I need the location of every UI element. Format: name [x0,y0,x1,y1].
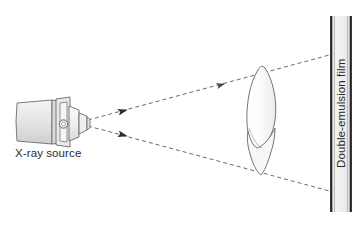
source-port-tip [87,117,90,130]
x-ray-source-label: X-ray source [15,148,81,160]
source-dial-inner-icon [62,122,66,126]
tooth-icon [247,66,276,175]
xray-diagram: X-ray source Double-emulsion film [0,0,364,227]
x-ray-beam-group [88,46,350,199]
source-exit-port [79,113,87,134]
beam-arrowhead-upper-near [117,106,128,115]
x-ray-source-icon [16,97,90,147]
beam-arrowhead-lower-near [117,130,128,139]
source-housing [16,100,52,144]
double-emulsion-film-label: Double-emulsion film [336,59,348,168]
source-collimator [69,106,79,141]
beam-ray-lower [88,126,348,196]
diagram-canvas [0,0,364,227]
